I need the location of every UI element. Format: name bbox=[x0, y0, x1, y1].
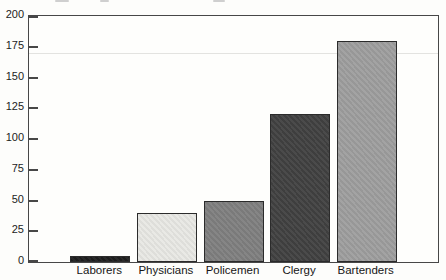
y-axis-tick-label: 200 bbox=[0, 8, 24, 21]
y-axis-tick-label: 25 bbox=[0, 223, 24, 236]
y-axis-tick-label: 75 bbox=[0, 162, 24, 175]
bar-clergy bbox=[270, 114, 330, 262]
x-axis-label-bartenders: Bartenders bbox=[321, 264, 411, 277]
y-axis-tick-label: 100 bbox=[0, 131, 24, 144]
y-axis-tick-label: 125 bbox=[0, 100, 24, 113]
y-axis-tick-label: 175 bbox=[0, 39, 24, 52]
bar-physicians bbox=[137, 213, 197, 262]
y-axis-tick bbox=[29, 169, 38, 171]
scan-artifact bbox=[100, 0, 109, 2]
plot-area bbox=[28, 15, 439, 263]
y-axis-tick bbox=[29, 46, 38, 48]
bar-policemen bbox=[204, 201, 264, 263]
y-axis-tick bbox=[29, 77, 38, 79]
y-axis-tick bbox=[29, 230, 38, 232]
y-axis-tick bbox=[29, 107, 38, 109]
bar-chart: 0255075100125150175200 LaborersPhysician… bbox=[0, 0, 446, 280]
y-axis-tick bbox=[29, 138, 38, 140]
y-axis-tick-label: 150 bbox=[0, 70, 24, 83]
y-axis-tick bbox=[29, 260, 38, 262]
y-axis-tick bbox=[29, 200, 38, 202]
y-axis-tick-label: 50 bbox=[0, 193, 24, 206]
y-axis-tick bbox=[29, 16, 38, 18]
y-axis-tick-label: 0 bbox=[0, 254, 24, 267]
bar-laborers bbox=[70, 256, 130, 262]
bar-bartenders bbox=[337, 41, 397, 262]
scan-artifact bbox=[55, 0, 69, 2]
scan-artifact bbox=[213, 0, 225, 2]
